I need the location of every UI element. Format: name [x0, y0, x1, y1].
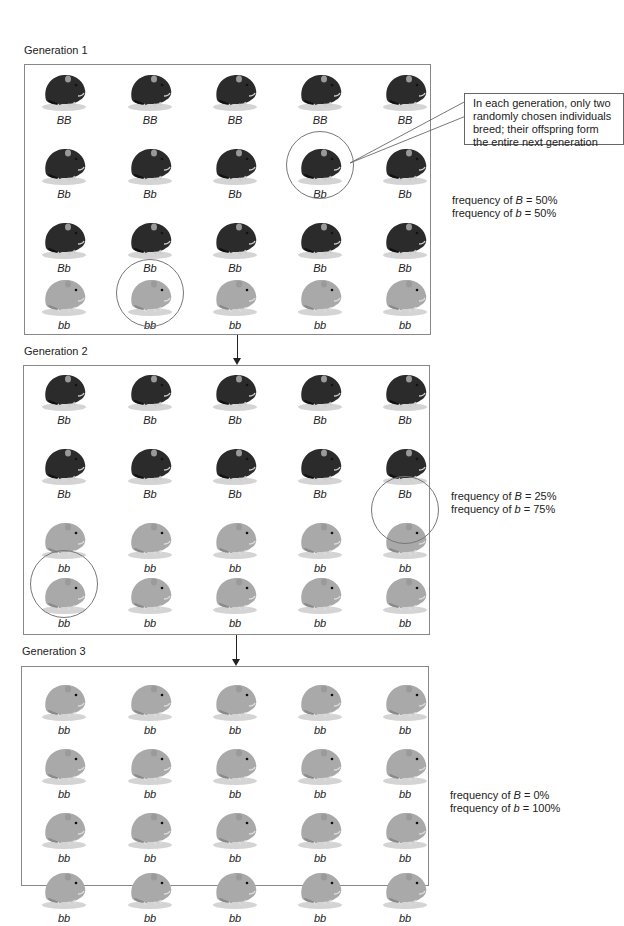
- genotype-label: BB: [370, 114, 440, 126]
- freq-value: = 0%: [521, 789, 549, 801]
- genotype-label: bb: [285, 788, 355, 800]
- genotype-label: bb: [29, 617, 99, 629]
- generation-1-label: Generation 1: [24, 44, 88, 56]
- genotype-label: bb: [200, 319, 270, 331]
- freq-value: = 75%: [521, 503, 556, 515]
- hamster-cell: Bb: [29, 144, 99, 210]
- genotype-label: bb: [29, 912, 99, 924]
- hamster-cell: bb: [200, 573, 270, 639]
- genotype-label: BB: [29, 114, 99, 126]
- genotype-label: bb: [115, 852, 185, 864]
- genotype-label: bb: [370, 319, 440, 331]
- dark-hamster-icon: [124, 218, 176, 260]
- light-hamster-icon: [379, 573, 431, 615]
- light-hamster-icon: [294, 518, 346, 560]
- genotype-label: bb: [370, 912, 440, 924]
- genotype-label: Bb: [115, 488, 185, 500]
- freq-value: = 25%: [522, 490, 557, 502]
- genotype-label: bb: [29, 788, 99, 800]
- genotype-label: bb: [370, 788, 440, 800]
- genotype-label: bb: [200, 617, 270, 629]
- hamster-cell: bb: [115, 868, 185, 926]
- hamster-cell: bb: [370, 275, 440, 341]
- dark-hamster-icon: [38, 218, 90, 260]
- allele-B: B: [515, 490, 522, 502]
- light-hamster-icon: [379, 744, 431, 786]
- hamster-cell: bb: [29, 680, 99, 746]
- dark-hamster-icon: [124, 370, 176, 412]
- hamster-cell: bb: [370, 744, 440, 810]
- freq-b-line: frequency of b = 50%: [452, 207, 558, 220]
- arrowhead-icon: [233, 358, 241, 365]
- light-hamster-icon: [209, 275, 261, 317]
- light-hamster-icon: [294, 868, 346, 910]
- hamster-cell: bb: [115, 680, 185, 746]
- generation-3-frequencies: frequency of B = 0% frequency of b = 100…: [450, 789, 560, 815]
- hamster-cell: bb: [29, 868, 99, 926]
- light-hamster-icon: [294, 744, 346, 786]
- hamster-cell: bb: [115, 573, 185, 639]
- freq-prefix: frequency of: [451, 503, 515, 515]
- dark-hamster-icon: [124, 144, 176, 186]
- hamster-cell: bb: [200, 808, 270, 874]
- hamster-cell: bb: [115, 808, 185, 874]
- genotype-label: Bb: [285, 262, 355, 274]
- genotype-label: bb: [370, 852, 440, 864]
- freq-value: = 50%: [522, 207, 557, 219]
- genotype-label: Bb: [370, 414, 440, 426]
- light-hamster-icon: [124, 680, 176, 722]
- genotype-label: BB: [200, 114, 270, 126]
- hamster-cell: BB: [29, 70, 99, 136]
- hamster-cell: BB: [285, 70, 355, 136]
- dark-hamster-icon: [294, 370, 346, 412]
- hamster-cell: Bb: [370, 144, 440, 210]
- genotype-label: bb: [285, 852, 355, 864]
- genotype-label: Bb: [370, 262, 440, 274]
- freq-prefix: frequency of: [452, 207, 516, 219]
- dark-hamster-icon: [38, 144, 90, 186]
- freq-b-line: frequency of b = 100%: [450, 802, 560, 815]
- callout-line: In each generation, only two: [473, 97, 623, 110]
- freq-prefix: frequency of: [451, 490, 515, 502]
- genotype-label: Bb: [370, 188, 440, 200]
- genotype-label: Bb: [29, 414, 99, 426]
- dark-hamster-icon: [38, 370, 90, 412]
- genotype-label: bb: [285, 617, 355, 629]
- dark-hamster-icon: [379, 70, 431, 112]
- light-hamster-icon: [209, 680, 261, 722]
- hamster-cell: bb: [370, 680, 440, 746]
- genotype-label: bb: [285, 912, 355, 924]
- hamster-cell: Bb: [200, 370, 270, 436]
- light-hamster-icon: [209, 518, 261, 560]
- freq-value: = 50%: [523, 194, 558, 206]
- callout-box: In each generation, only two randomly ch…: [464, 93, 624, 145]
- genotype-label: bb: [200, 852, 270, 864]
- genotype-label: Bb: [285, 488, 355, 500]
- dark-hamster-icon: [294, 218, 346, 260]
- light-hamster-icon: [38, 868, 90, 910]
- dark-hamster-icon: [209, 218, 261, 260]
- hamster-cell: bb: [370, 868, 440, 926]
- light-hamster-icon: [38, 680, 90, 722]
- genotype-label: bb: [200, 912, 270, 924]
- genotype-label: bb: [29, 724, 99, 736]
- dark-hamster-icon: [294, 70, 346, 112]
- light-hamster-icon: [294, 573, 346, 615]
- hamster-cell: Bb: [200, 144, 270, 210]
- callout-line: the entire next generation: [473, 136, 623, 149]
- hamster-cell: bb: [200, 680, 270, 746]
- dark-hamster-icon: [209, 370, 261, 412]
- hamster-cell: Bb: [285, 370, 355, 436]
- hamster-cell: bb: [370, 573, 440, 639]
- hamster-cell: bb: [200, 275, 270, 341]
- light-hamster-icon: [124, 868, 176, 910]
- hamster-cell: Bb: [115, 370, 185, 436]
- genotype-label: BB: [115, 114, 185, 126]
- hamster-cell: BB: [200, 70, 270, 136]
- hamster-cell: Bb: [29, 370, 99, 436]
- light-hamster-icon: [209, 573, 261, 615]
- genotype-label: bb: [200, 788, 270, 800]
- light-hamster-icon: [379, 808, 431, 850]
- generation-2-label: Generation 2: [24, 345, 88, 357]
- genotype-label: bb: [115, 724, 185, 736]
